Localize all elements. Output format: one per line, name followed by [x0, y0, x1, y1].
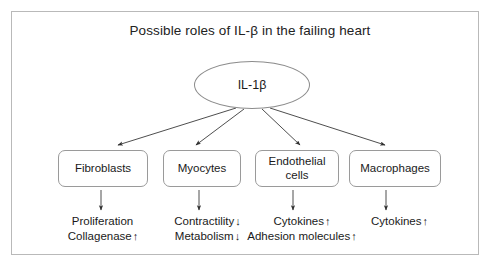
box-fibroblasts: Fibroblasts	[58, 150, 148, 187]
effect-item: Cytokines↑	[352, 214, 447, 229]
effect-text: Proliferation	[72, 215, 133, 227]
effect-text: Metabolism	[175, 230, 234, 242]
effect-text: Cytokines	[274, 215, 325, 227]
effect-arrow-up-icon: ↑	[132, 230, 139, 242]
effect-text: Cytokines	[371, 215, 422, 227]
effects-macrophages: Cytokines↑	[352, 214, 447, 229]
effect-arrow-up-icon: ↑	[422, 215, 429, 227]
effect-arrow-up-icon: ↑	[350, 230, 357, 242]
box-macrophages: Macrophages	[349, 150, 441, 187]
box-macrophages-label: Macrophages	[356, 162, 434, 175]
effects-fibroblasts: Proliferation Collagenase↑	[48, 214, 158, 243]
effect-item: Adhesion molecules↑	[243, 229, 361, 244]
node-il1b: IL-1β	[194, 61, 310, 109]
effect-text: Collagenase	[68, 230, 132, 242]
node-il1b-label: IL-1β	[238, 78, 267, 92]
effect-arrow-down-icon: ↓	[234, 230, 241, 242]
effect-text: Contractility	[174, 215, 234, 227]
effect-item: Collagenase↑	[48, 229, 158, 244]
box-fibroblasts-label: Fibroblasts	[71, 162, 135, 175]
box-myocytes: Myocytes	[163, 150, 241, 187]
figure-canvas: Possible roles of IL-β in the failing he…	[0, 0, 500, 269]
effect-arrow-down-icon: ↓	[234, 215, 241, 227]
box-endothelial-cells: Endothelial cells	[255, 150, 339, 187]
effects-endothelial-cells: Cytokines↑ Adhesion molecules↑	[243, 214, 361, 243]
box-endothelial-cells-label: Endothelial cells	[256, 155, 338, 181]
effect-item: Proliferation	[48, 214, 158, 229]
effect-item: Cytokines↑	[243, 214, 361, 229]
effect-arrow-icon	[133, 215, 134, 227]
effect-text: Adhesion molecules	[247, 230, 350, 242]
box-myocytes-label: Myocytes	[174, 162, 231, 175]
figure-title: Possible roles of IL-β in the failing he…	[0, 23, 500, 38]
effect-arrow-up-icon: ↑	[324, 215, 331, 227]
